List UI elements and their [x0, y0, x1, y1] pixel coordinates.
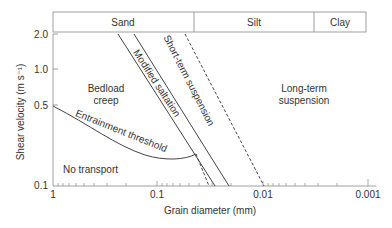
label-creep: creep [93, 95, 118, 106]
y-tick-2.0: 2.0 [34, 29, 48, 40]
label-no-transport: No transport [63, 164, 118, 175]
label-short-term-suspension: Short-term suspension [161, 33, 216, 128]
label-entrainment-threshold: Entrainment threshold [74, 107, 169, 154]
band-sand-label: Sand [111, 17, 134, 28]
x-tick-0.1: 0.1 [150, 189, 164, 200]
region-labels: Bedload creep Modified saltation Short-t… [63, 33, 329, 175]
x-tick-0.01: 0.01 [253, 189, 273, 200]
grain-size-transport-chart: Sand Silt Clay [0, 0, 392, 228]
y-tick-0.5: 0.5 [34, 100, 48, 111]
y-tick-1.0: 1.0 [34, 64, 48, 75]
size-class-band: Sand Silt Clay [53, 12, 366, 32]
y-tick-0.1: 0.1 [34, 180, 48, 191]
axes: 2.0 1.0 0.5 0.1 1 0.1 0.01 0.001 Grain d… [15, 29, 381, 216]
band-silt-label: Silt [247, 17, 261, 28]
label-long-term: Long-term [281, 83, 327, 94]
label-bedload: Bedload [88, 83, 125, 94]
x-tick-1: 1 [50, 189, 56, 200]
band-clay-label: Clay [330, 17, 350, 28]
label-suspension: suspension [279, 95, 330, 106]
x-axis-label: Grain diameter (mm) [164, 205, 256, 216]
x-tick-0.001: 0.001 [355, 189, 380, 200]
y-axis-label: Shear velocity (m s⁻¹) [15, 64, 26, 161]
short-term-suspension-boundary [185, 34, 264, 186]
